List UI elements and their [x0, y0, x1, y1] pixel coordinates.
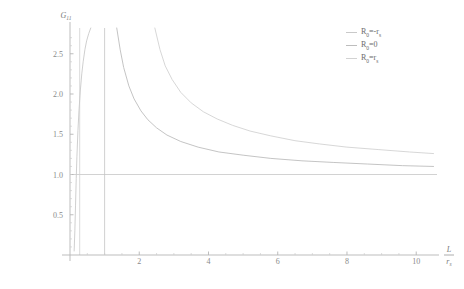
chart-container: 2468100.51.01.52.02.5 G11Lrs R0=-rsR0=0R…: [0, 0, 464, 289]
chart-legend: R0=-rsR0=0R0=rs: [346, 26, 456, 65]
tick-label-layer: 2468100.51.01.52.02.5: [53, 50, 420, 266]
tick-layer: [70, 38, 416, 255]
x-axis-title-numerator: L: [446, 245, 452, 254]
legend-swatch-2: [346, 58, 357, 59]
legend-item-2[interactable]: R0=rs: [346, 52, 456, 65]
legend-label-2: R0=rs: [361, 53, 378, 64]
legend-swatch-1: [346, 45, 357, 46]
legend-item-1[interactable]: R0=0: [346, 39, 456, 52]
x-tick-label-4: 10: [412, 257, 420, 266]
x-tick-label-2: 6: [276, 257, 280, 266]
legend-item-0[interactable]: R0=-rs: [346, 26, 456, 39]
y-tick-label-4: 2.5: [53, 50, 63, 59]
series-line-0: [74, 28, 91, 251]
x-tick-label-3: 8: [345, 257, 349, 266]
x-tick-label-1: 4: [206, 257, 210, 266]
legend-label-1: R0=0: [361, 40, 378, 51]
y-tick-label-0: 0.5: [53, 211, 63, 220]
x-tick-label-0: 2: [137, 257, 141, 266]
legend-label-0: R0=-rs: [361, 27, 381, 38]
y-axis-title: G11: [61, 11, 72, 21]
legend-swatch-0: [346, 32, 357, 33]
y-tick-label-1: 1.0: [53, 171, 63, 180]
x-axis-title-denominator: rs: [446, 257, 451, 267]
y-tick-label-2: 1.5: [53, 130, 63, 139]
y-tick-label-3: 2.0: [53, 90, 63, 99]
